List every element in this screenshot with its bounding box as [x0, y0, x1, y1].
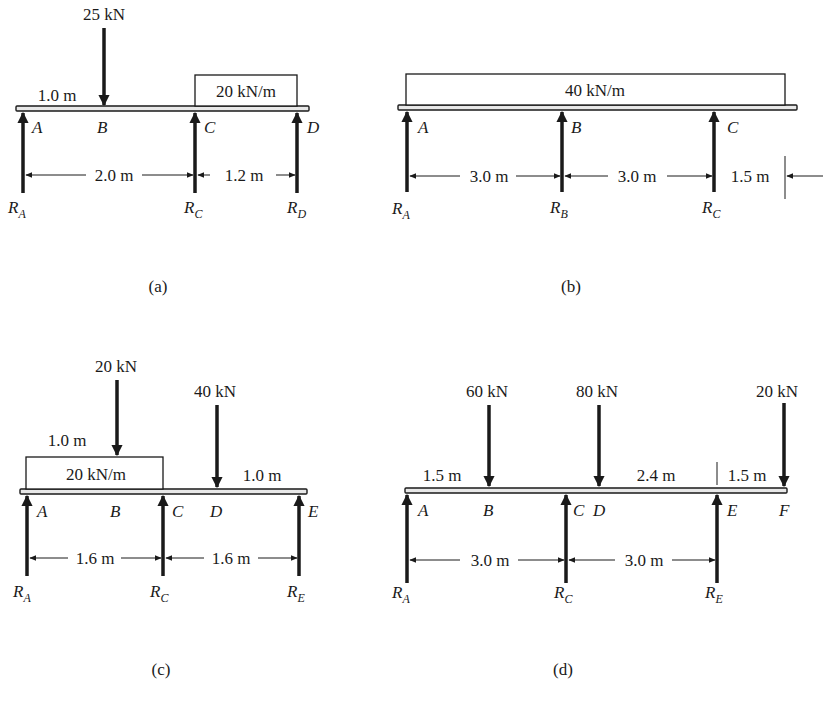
point-label-b: B: [97, 118, 108, 137]
offset-label: 1.5 m: [423, 466, 462, 485]
reaction-label: RC: [149, 582, 169, 605]
span-label: 3.0 m: [625, 551, 664, 570]
offset-label: 1.5 m: [728, 466, 767, 485]
point-label-c: C: [204, 118, 216, 137]
panel-b: 40 kN/m A B C 3.0 m 3.0 m 1.5 m RA RB RC…: [391, 74, 823, 296]
point-label-c: C: [727, 118, 739, 137]
point-label-b: B: [110, 502, 121, 521]
offset-label: 2.4 m: [637, 466, 676, 485]
point-load-label: 25 kN: [83, 5, 125, 24]
point-load-label: 40 kN: [194, 382, 236, 401]
panel-caption: (a): [149, 277, 168, 296]
point-label-a: A: [31, 118, 43, 137]
panel-c: 20 kN/m 20 kN 1.0 m 40 kN 1.0 m A B C D …: [12, 357, 319, 679]
distributed-load-label: 40 kN/m: [565, 81, 625, 100]
span-label: 3.0 m: [470, 167, 509, 186]
point-label-a: A: [417, 118, 429, 137]
point-label-e: E: [726, 501, 738, 520]
panel-caption: (d): [553, 660, 573, 679]
span-label: 1.5 m: [731, 167, 770, 186]
reaction-label: RC: [183, 198, 203, 221]
point-load-label: 80 kN: [576, 382, 618, 401]
point-load-label: 20 kN: [756, 382, 798, 401]
reaction-label: RA: [12, 582, 31, 605]
beam: [405, 488, 787, 493]
point-label-f: F: [778, 501, 790, 520]
beam-diagrams-figure: 20 kN/m 25 kN 1.0 m A B C D 2.0 m 1.2 m …: [0, 0, 823, 711]
beam: [16, 106, 309, 111]
point-label-b: B: [571, 118, 582, 137]
span-label: 1.6 m: [212, 549, 251, 568]
offset-label: 1.0 m: [243, 466, 282, 485]
span-label: 1.6 m: [76, 549, 115, 568]
panel-caption: (b): [561, 277, 581, 296]
point-label-d: D: [306, 118, 320, 137]
reaction-label: RB: [549, 198, 568, 221]
point-label-d: D: [209, 502, 223, 521]
panel-caption: (c): [152, 660, 171, 679]
reaction-label: RE: [704, 583, 723, 606]
panel-a: 20 kN/m 25 kN 1.0 m A B C D 2.0 m 1.2 m …: [7, 5, 320, 296]
reaction-label: RC: [701, 198, 721, 221]
reaction-label: RA: [391, 199, 410, 222]
span-label: 2.0 m: [95, 166, 134, 185]
point-label-a: A: [417, 501, 429, 520]
point-label-e: E: [307, 502, 319, 521]
beam: [398, 105, 797, 110]
offset-label: 1.0 m: [48, 431, 87, 450]
distributed-load-label: 20 kN/m: [66, 465, 126, 484]
point-label-d: D: [592, 501, 606, 520]
point-label-a: A: [36, 502, 48, 521]
beam: [20, 489, 307, 494]
reaction-label: RE: [286, 582, 305, 605]
point-load-label: 20 kN: [95, 357, 137, 376]
point-load-label: 60 kN: [466, 382, 508, 401]
point-label-b: B: [483, 501, 494, 520]
reaction-label: RA: [7, 198, 26, 221]
panel-d: 60 kN 80 kN 20 kN 1.5 m 2.4 m 1.5 m A B …: [391, 382, 798, 679]
offset-label: 1.0 m: [38, 86, 77, 105]
reaction-label: RD: [286, 198, 306, 221]
point-label-c: C: [172, 502, 184, 521]
reaction-label: RA: [391, 583, 410, 606]
span-label: 3.0 m: [471, 551, 510, 570]
distributed-load-label: 20 kN/m: [216, 82, 276, 101]
span-label: 1.2 m: [225, 166, 264, 185]
point-label-c: C: [573, 501, 585, 520]
span-label: 3.0 m: [618, 167, 657, 186]
reaction-label: RC: [553, 583, 573, 606]
